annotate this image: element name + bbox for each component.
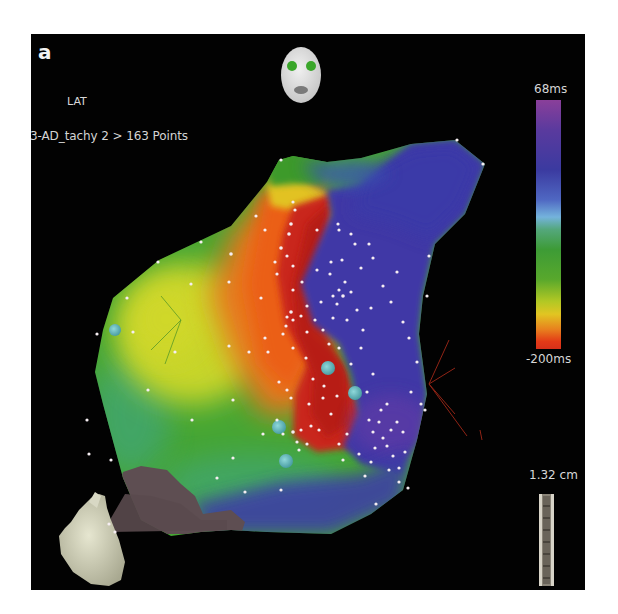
scale-label: 1.32 cm <box>529 468 578 482</box>
electroanatomic-map <box>31 34 585 590</box>
colorbar-max-label: 68ms <box>534 82 567 96</box>
activation-map-surface <box>31 34 585 590</box>
heart-orientation-icon <box>59 492 125 586</box>
map-type-label: LAT <box>67 95 87 109</box>
colorbar-min-label: -200ms <box>526 352 571 366</box>
mapping-panel: a LAT 3-AD_tachy 2 > 163 Points 68ms -20… <box>31 34 585 590</box>
lat-colorbar <box>536 100 561 349</box>
catheter-indicator-icon <box>429 340 482 440</box>
map-name-label: 3-AD_tachy 2 > 163 Points <box>31 129 188 144</box>
scale-bar-icon <box>538 494 555 586</box>
face-orientation-icon <box>281 47 321 103</box>
panel-label: a <box>38 40 52 64</box>
